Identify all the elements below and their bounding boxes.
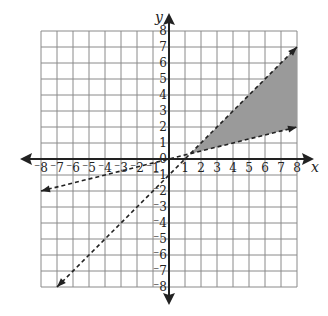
y-tick-label: ⁻8 bbox=[153, 280, 167, 294]
x-tick-label: 4 bbox=[229, 161, 237, 175]
y-tick-label: ⁻7 bbox=[153, 264, 167, 278]
y-tick-label: 1 bbox=[159, 136, 167, 150]
y-tick-label: ⁻6 bbox=[153, 248, 167, 262]
x-tick-label: ⁻4 bbox=[98, 161, 112, 175]
y-tick-label: 7 bbox=[159, 40, 167, 54]
y-tick-label: ⁻5 bbox=[153, 232, 167, 246]
y-axis-label: y bbox=[154, 9, 164, 25]
x-tick-labels: ⁻8⁻7⁻6⁻5⁻4⁻3⁻2⁻112345678 bbox=[34, 161, 301, 175]
y-tick-label: 0 bbox=[159, 152, 167, 166]
y-tick-label: 2 bbox=[159, 120, 167, 134]
x-tick-label: 7 bbox=[277, 161, 285, 175]
y-tick-label: 8 bbox=[159, 24, 167, 38]
x-axis-label: x bbox=[311, 159, 319, 175]
x-tick-label: ⁻2 bbox=[130, 161, 144, 175]
x-tick-label: ⁻5 bbox=[82, 161, 96, 175]
y-tick-label: 6 bbox=[159, 56, 167, 70]
y-tick-label: ⁻1 bbox=[153, 168, 167, 182]
x-tick-label: 5 bbox=[245, 161, 253, 175]
y-tick-label: 4 bbox=[159, 88, 167, 102]
y-tick-label: ⁻2 bbox=[153, 184, 167, 198]
x-tick-label: ⁻3 bbox=[114, 161, 128, 175]
y-tick-label: 5 bbox=[159, 72, 167, 86]
x-tick-label: 6 bbox=[261, 161, 269, 175]
x-tick-label: ⁻8 bbox=[34, 161, 48, 175]
x-tick-label: 2 bbox=[197, 161, 205, 175]
x-tick-label: 8 bbox=[293, 161, 301, 175]
x-tick-label: ⁻7 bbox=[50, 161, 64, 175]
y-tick-label: ⁻3 bbox=[153, 200, 167, 214]
y-tick-label: 3 bbox=[159, 104, 167, 118]
x-tick-label: 3 bbox=[213, 161, 221, 175]
x-tick-label: 1 bbox=[181, 161, 189, 175]
y-tick-label: ⁻4 bbox=[153, 216, 167, 230]
x-tick-label: ⁻6 bbox=[66, 161, 80, 175]
coordinate-plane: ⁻8⁻7⁻6⁻5⁻4⁻3⁻2⁻112345678 876543210⁻1⁻2⁻3… bbox=[0, 0, 328, 316]
